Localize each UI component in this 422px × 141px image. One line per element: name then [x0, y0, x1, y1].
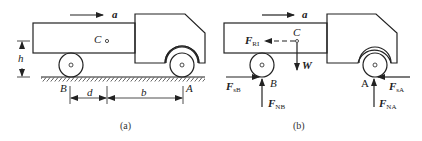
weight-label: W: [302, 59, 313, 71]
front-wheel-b: [359, 47, 391, 77]
inertia-force-label: FRI: [244, 34, 260, 48]
ground: [41, 77, 205, 82]
friction-b-label: FsB: [225, 80, 241, 94]
contact-b-label: B: [60, 82, 67, 94]
acceleration-label-b: a: [302, 8, 308, 20]
caption-b: (b): [293, 120, 305, 132]
rear-wheel-b: [250, 53, 274, 77]
front-wheel-a: [166, 47, 198, 77]
height-label: h: [18, 52, 24, 64]
center-of-mass-label: C: [94, 33, 102, 45]
caption-a: (a): [120, 120, 131, 132]
normal-b-label: FNB: [267, 97, 285, 111]
contact-b-label-b: B: [270, 77, 277, 89]
truck-body-a: [33, 14, 205, 63]
rear-wheel-a: [59, 53, 83, 77]
figure-a: a C h: [17, 8, 205, 132]
center-of-mass-label-b: C: [293, 26, 301, 38]
center-of-mass-dot-b: [296, 40, 299, 43]
contact-a-label: A: [185, 82, 193, 94]
acceleration-label: a: [112, 8, 118, 20]
friction-a-label: FsA: [388, 80, 404, 94]
center-of-mass-dot: [105, 39, 108, 42]
truck-dynamics-diagram: a C h: [0, 0, 422, 141]
figure-b: a C FRI W FsB FNB B FsA FNA A: [224, 8, 410, 132]
normal-a-label: FNA: [378, 97, 396, 111]
contact-a-label-b: A: [361, 77, 369, 89]
dimension-b-label: b: [141, 86, 147, 98]
dimension-d-label: d: [87, 86, 93, 98]
